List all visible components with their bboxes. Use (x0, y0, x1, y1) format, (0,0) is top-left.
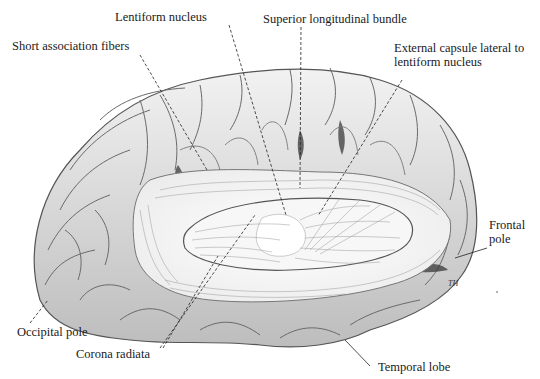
brain-dissection-figure: Lentiform nucleus Superior longitudinal … (0, 0, 540, 379)
label-short-association-fibers: Short association fibers (12, 39, 129, 53)
label-occipital-pole: Occipital pole (17, 325, 87, 339)
label-lentiform-nucleus: Lentiform nucleus (115, 10, 207, 24)
label-superior-longitudinal-bundle: Superior longitudinal bundle (263, 12, 407, 26)
label-corona-radiata: Corona radiata (76, 347, 150, 361)
label-frontal-pole: Frontal pole (489, 218, 525, 246)
label-temporal-lobe: Temporal lobe (378, 360, 450, 374)
artist-signature: TH (448, 279, 458, 288)
leader-temporal-lobe (345, 340, 370, 366)
stray-mark (496, 291, 498, 293)
label-external-capsule: External capsule lateral to lentiform nu… (394, 41, 524, 69)
